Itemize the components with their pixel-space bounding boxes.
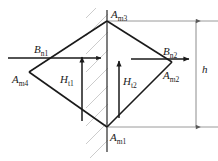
label-bn2: Bn2	[163, 42, 177, 58]
label-am2: Am2	[163, 66, 179, 82]
label-am3: Am3	[111, 5, 127, 21]
label-ht2: Ht2	[123, 72, 137, 88]
diagram-canvas: Am3 Am2 Am1 Am4 Bn1 Bn2 Ht1 Ht2 h	[0, 0, 218, 161]
label-h-dimension: h	[202, 64, 208, 75]
label-ht1: Ht1	[60, 70, 74, 86]
label-bn1: Bn1	[34, 40, 48, 56]
label-am1: Am1	[110, 128, 126, 144]
label-am4: Am4	[12, 70, 28, 86]
diagram-svg	[0, 0, 218, 161]
hatching-lines	[74, 0, 112, 161]
